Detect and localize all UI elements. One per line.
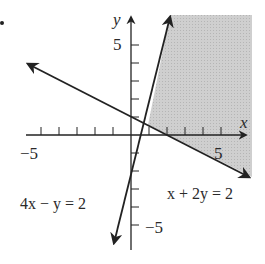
y-tick-label-neg5: −5: [145, 218, 163, 237]
x-tick-label-5: 5: [214, 144, 223, 163]
x-tick-label-neg5: −5: [20, 144, 38, 163]
y-axis-label: y: [111, 10, 121, 29]
equation-label-x-plus-2y: x + 2y = 2: [167, 185, 233, 203]
bullet-dot: [0, 21, 4, 25]
equation-label-4x-minus-y: 4x − y = 2: [20, 195, 86, 213]
y-tick-label-5: 5: [113, 35, 122, 54]
x-axis-label: x: [239, 113, 248, 132]
graph: y 5 x −5 5 −5 4x − y = 2 x + 2y = 2: [0, 0, 265, 264]
